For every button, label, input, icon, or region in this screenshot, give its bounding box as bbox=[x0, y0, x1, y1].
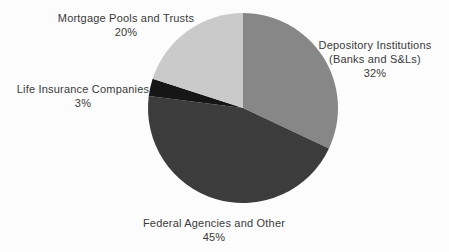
pie-chart bbox=[0, 0, 449, 252]
pie-chart-figure: Mortgage Pools and Trusts 20% Depository… bbox=[0, 0, 449, 252]
